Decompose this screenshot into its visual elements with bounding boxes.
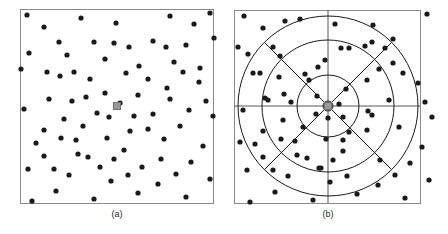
sample-point <box>370 22 375 27</box>
sample-point <box>111 156 116 161</box>
sample-point <box>369 112 374 117</box>
sample-point <box>327 179 332 184</box>
sample-point <box>196 79 201 84</box>
sample-point <box>402 195 407 200</box>
sample-point <box>183 194 188 199</box>
panel-a-reference-marker <box>114 103 121 110</box>
sample-point <box>167 96 172 101</box>
sample-point <box>344 173 349 178</box>
sample-point <box>415 80 420 85</box>
sample-point <box>294 152 299 157</box>
sample-point <box>426 177 431 182</box>
sample-point <box>250 70 255 75</box>
sample-point <box>51 166 56 171</box>
sample-point <box>285 173 290 178</box>
sample-point <box>386 97 391 102</box>
sample-point <box>171 59 176 64</box>
sample-point <box>203 98 208 103</box>
sample-point <box>163 44 168 49</box>
sample-point <box>340 114 345 119</box>
sample-point <box>322 57 327 62</box>
sample-point <box>377 157 382 162</box>
sample-point <box>167 13 172 18</box>
sample-point <box>173 171 178 176</box>
sample-point <box>91 196 96 201</box>
sample-point <box>241 13 246 18</box>
sample-point <box>94 110 99 115</box>
sample-point <box>78 15 83 20</box>
sample-point <box>260 128 265 133</box>
sample-point <box>282 18 287 23</box>
sample-point <box>75 151 80 156</box>
sample-point <box>260 154 265 159</box>
sample-point <box>41 127 46 132</box>
figure-canvas <box>0 0 448 234</box>
sample-point <box>278 136 283 141</box>
sample-point <box>354 191 359 196</box>
sample-point <box>343 86 348 91</box>
sample-point <box>325 115 330 120</box>
sample-point <box>396 124 401 129</box>
sample-point <box>73 137 78 142</box>
sample-point <box>265 97 270 102</box>
sample-point <box>102 56 107 61</box>
sample-point <box>340 148 345 153</box>
panel-a-caption: (a) <box>96 209 138 219</box>
sample-point <box>257 70 262 75</box>
sample-point <box>145 76 150 81</box>
sample-point <box>280 117 285 122</box>
sample-point <box>392 172 397 177</box>
sample-point <box>24 12 29 17</box>
sample-point <box>191 21 196 26</box>
sample-point <box>245 51 250 56</box>
sample-point <box>365 108 370 113</box>
sample-point <box>288 99 293 104</box>
sample-point <box>364 127 369 132</box>
sample-point <box>97 164 102 169</box>
sample-point <box>422 99 427 104</box>
sample-point <box>108 178 113 183</box>
sample-point <box>197 65 202 70</box>
sample-point <box>150 111 155 116</box>
sample-point <box>80 123 85 128</box>
sample-point <box>127 128 132 133</box>
sample-point <box>71 69 76 74</box>
sample-point <box>135 92 140 97</box>
sample-point <box>281 91 286 96</box>
sample-point <box>69 98 74 103</box>
sample-point <box>21 106 26 111</box>
sample-point <box>276 74 281 79</box>
sample-point <box>364 77 369 82</box>
sample-point <box>429 114 434 119</box>
sample-point <box>211 35 216 40</box>
panel-b <box>234 10 435 205</box>
sample-point <box>270 44 275 49</box>
sample-point <box>376 66 381 71</box>
sample-point <box>300 124 305 129</box>
sample-point <box>57 73 62 78</box>
sample-point <box>313 111 318 116</box>
sample-point <box>139 164 144 169</box>
sample-point <box>91 39 96 44</box>
sample-point <box>131 113 136 118</box>
sample-point <box>102 90 107 95</box>
sample-point <box>106 114 111 119</box>
sample-point <box>41 153 46 158</box>
sample-point <box>61 116 66 121</box>
sample-point <box>237 139 242 144</box>
sample-point <box>375 182 380 187</box>
figure-container: (a) (b) <box>0 0 448 234</box>
sample-point <box>310 197 315 202</box>
sample-point <box>390 60 395 65</box>
sample-point <box>183 42 188 47</box>
sample-point <box>270 167 275 172</box>
sample-point <box>323 136 328 141</box>
sample-point <box>41 24 46 29</box>
sample-point <box>83 94 88 99</box>
sample-point <box>104 135 109 140</box>
panel-b-reference-marker <box>325 103 332 110</box>
sample-point <box>53 188 58 193</box>
sample-point <box>207 10 212 15</box>
sample-point <box>186 107 191 112</box>
sample-point <box>314 93 319 98</box>
